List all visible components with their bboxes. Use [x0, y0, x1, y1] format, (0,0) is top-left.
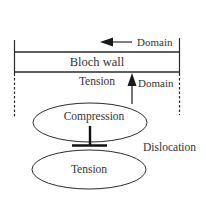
dislocation-symbol-icon [72, 126, 107, 146]
domain-arrow-up-icon [128, 73, 137, 104]
compression-label: Compression [64, 110, 125, 123]
bloch-wall-dislocation-diagram: Domain Bloch wall Tension Domain Compres… [0, 0, 206, 199]
bloch-wall-label: Bloch wall [70, 55, 125, 69]
domain-top-label: Domain [137, 36, 173, 48]
tension-upper-label: Tension [79, 75, 115, 87]
dislocation-label: Dislocation [143, 141, 196, 153]
domain-arrow-left-icon [100, 38, 132, 47]
tension-lower-label: Tension [71, 163, 107, 175]
domain-right-label: Domain [138, 77, 174, 89]
